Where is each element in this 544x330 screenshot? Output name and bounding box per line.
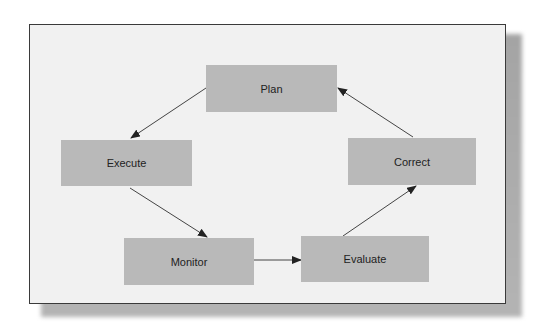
node-execute: Execute	[61, 140, 192, 186]
arrow-evaluate-to-correct	[343, 186, 416, 236]
node-correct-label: Correct	[394, 156, 430, 168]
node-monitor: Monitor	[124, 238, 254, 285]
node-evaluate: Evaluate	[301, 236, 429, 282]
node-monitor-label: Monitor	[171, 256, 208, 268]
node-execute-label: Execute	[107, 157, 147, 169]
node-plan: Plan	[206, 65, 337, 112]
node-evaluate-label: Evaluate	[344, 253, 387, 265]
node-plan-label: Plan	[260, 83, 282, 95]
arrow-correct-to-plan	[338, 88, 413, 137]
node-correct: Correct	[348, 138, 476, 185]
arrow-plan-to-execute	[131, 88, 206, 138]
arrow-execute-to-monitor	[130, 188, 207, 237]
